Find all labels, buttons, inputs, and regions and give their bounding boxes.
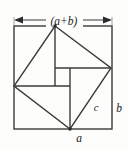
pythagorean-diagram: (a+b) b a c — [0, 0, 129, 150]
label-hypotenuse: c — [94, 102, 99, 113]
arrowhead-left-icon — [14, 17, 23, 24]
label-top-dimension: (a+b) — [51, 15, 78, 28]
vertex-markers — [53, 24, 71, 130]
arrowhead-right-icon — [103, 17, 112, 24]
outer-square — [14, 26, 112, 129]
tilted-square — [14, 26, 111, 129]
diagram-canvas: (a+b) b a c — [0, 0, 129, 150]
label-right-side: b — [116, 102, 122, 114]
pinwheel-lines — [14, 26, 111, 129]
label-bottom-side: a — [76, 132, 82, 144]
vertex-dot-bottom — [68, 127, 71, 130]
